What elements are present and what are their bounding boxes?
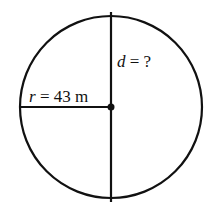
radius-value: = 43 m — [36, 87, 89, 106]
circle-figure — [0, 0, 212, 215]
diameter-variable: d — [117, 52, 126, 71]
center-point — [108, 104, 115, 111]
diameter-label: d = ? — [117, 53, 151, 70]
radius-variable: r — [29, 87, 36, 106]
radius-label: r = 43 m — [29, 88, 88, 105]
diameter-value: = ? — [126, 52, 152, 71]
circle-diagram: r = 43 m d = ? — [0, 0, 212, 215]
